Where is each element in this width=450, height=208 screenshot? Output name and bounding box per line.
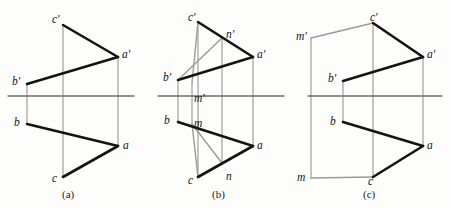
point-label-c-a_prime: a' <box>427 48 435 60</box>
panel-b <box>158 22 284 177</box>
heavy-edge-b-a <box>343 122 423 146</box>
point-label-b-a: a <box>257 139 263 151</box>
point-label-b-a_prime: a' <box>257 48 265 60</box>
heavy-edge-c_prime-a_prime <box>63 25 118 57</box>
heavy-edge-b-a <box>27 124 118 146</box>
point-label-b-b_prime: b' <box>163 71 171 83</box>
point-label-a-b_prime: b' <box>12 75 20 87</box>
panel-a <box>8 25 134 177</box>
panel-c <box>308 23 442 178</box>
heavy-edge-b-a <box>178 122 253 146</box>
point-label-b-c: c <box>188 174 193 186</box>
point-label-c-b: b <box>330 115 336 127</box>
point-label-a-c: c <box>52 172 57 184</box>
heavy-edge-a_prime-b_prime <box>27 57 118 84</box>
aux-line-m_prime-c_prime <box>311 23 373 38</box>
panel-caption-a: (a) <box>62 188 74 200</box>
point-label-b-c_prime: c' <box>188 11 196 23</box>
point-label-c-c: c <box>368 175 373 187</box>
panel-caption-b: (b) <box>212 188 225 200</box>
panel-caption-c: (c) <box>363 188 375 200</box>
point-label-b-n: n <box>226 170 232 182</box>
point-label-c-b_prime: b' <box>328 72 336 84</box>
figure-canvas: c'a'b'bac(a)c'n'a'b'm'bmanc(b)c'm'a'b'ba… <box>0 0 450 208</box>
aux-line-m-n <box>192 124 222 163</box>
point-label-a-b: b <box>14 116 20 128</box>
projection-drawing-svg <box>0 0 450 208</box>
point-label-a-a_prime: a' <box>122 48 130 60</box>
point-label-b-m_prime: m' <box>194 92 205 104</box>
heavy-edge-a_prime-b_prime <box>343 57 423 81</box>
aux-line-m-c <box>311 177 373 178</box>
point-label-c-m_prime: m' <box>296 30 307 42</box>
point-label-b-b: b <box>164 114 170 126</box>
point-label-c-c_prime: c' <box>370 11 378 23</box>
aux-line-m-c <box>192 124 198 177</box>
point-label-b-n_prime: n' <box>226 28 234 40</box>
point-label-a-a: a <box>123 139 129 151</box>
point-label-b-m: m <box>194 117 202 129</box>
point-label-c-m: m <box>297 171 305 183</box>
heavy-edge-c_prime-a_prime <box>373 23 423 57</box>
point-label-c-a: a <box>427 139 433 151</box>
point-label-a-c_prime: c' <box>52 13 60 25</box>
heavy-edge-a-c <box>63 146 118 177</box>
heavy-edge-a-c <box>373 146 423 177</box>
